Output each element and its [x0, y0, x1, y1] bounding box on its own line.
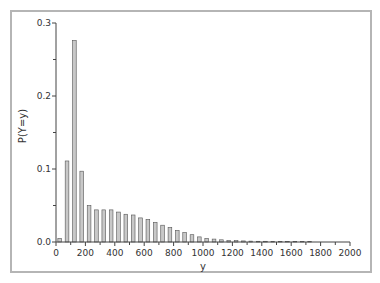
bar	[161, 225, 165, 242]
x-tick-label: 1000	[192, 248, 215, 258]
bar	[124, 214, 128, 242]
bar	[153, 222, 157, 242]
y-axis-label: P(Y=y)	[17, 109, 28, 143]
bar	[58, 238, 62, 242]
bar	[139, 218, 143, 242]
bar	[175, 230, 179, 242]
bar	[168, 227, 172, 242]
axes-group: 0.00.10.20.30200400600800100012001400160…	[37, 18, 362, 258]
bar	[80, 171, 84, 242]
x-tick-label: 200	[77, 248, 94, 258]
x-tick-label: 1200	[221, 248, 244, 258]
bar	[109, 210, 113, 242]
bar	[146, 219, 150, 242]
y-tick-label: 0.2	[37, 91, 51, 101]
bar	[131, 215, 135, 242]
x-tick-label: 1600	[280, 248, 303, 258]
bar	[95, 210, 99, 242]
bar	[87, 206, 91, 243]
y-tick-label: 0.1	[37, 164, 51, 174]
bar	[205, 238, 209, 242]
y-tick-label: 0.3	[37, 18, 51, 28]
bar	[65, 161, 69, 242]
x-axis-label: y	[200, 261, 206, 272]
bar	[183, 233, 187, 242]
bar	[197, 237, 201, 242]
x-tick-label: 600	[136, 248, 153, 258]
bars-group	[58, 41, 312, 242]
x-tick-label: 0	[53, 248, 59, 258]
x-tick-label: 800	[165, 248, 182, 258]
bar	[102, 210, 106, 242]
x-tick-label: 1800	[309, 248, 332, 258]
x-tick-label: 2000	[339, 248, 362, 258]
bar	[190, 235, 194, 242]
bar	[117, 212, 121, 242]
x-tick-label: 1400	[250, 248, 273, 258]
x-tick-label: 400	[106, 248, 123, 258]
bar-chart: 0.00.10.20.30200400600800100012001400160…	[0, 0, 380, 283]
bar	[73, 41, 77, 242]
y-tick-label: 0.0	[37, 237, 52, 247]
